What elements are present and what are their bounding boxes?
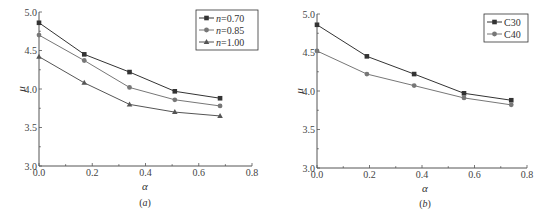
data-point-marker (412, 72, 417, 77)
data-point-marker (509, 98, 514, 103)
legend-marker (492, 32, 497, 37)
data-point-marker (509, 102, 514, 107)
y-tick-label: 5.0 (25, 7, 38, 18)
data-point-marker (218, 104, 223, 109)
legend-entry: C30 (504, 17, 521, 28)
y-tick-label: 3.5 (303, 124, 316, 135)
data-point-marker (315, 49, 320, 54)
x-axis-label: α (142, 180, 148, 192)
data-point-marker (36, 54, 42, 59)
y-tick-label: 3.0 (303, 163, 316, 174)
x-tick-label: 0.6 (468, 169, 481, 180)
y-tick-label: 3.5 (25, 122, 38, 133)
data-point-marker (82, 58, 87, 63)
x-tick-label: 0.2 (86, 167, 99, 178)
x-tick-label: 0.8 (521, 169, 534, 180)
data-point-marker (172, 97, 177, 102)
data-point-marker (37, 20, 42, 25)
y-tick-label: 4.5 (25, 45, 38, 56)
x-tick-label: 0.4 (416, 169, 429, 180)
legend-marker (204, 28, 209, 33)
y-tick-label: 3.0 (25, 161, 38, 172)
legend-entry: n=1.00 (216, 37, 244, 48)
panel-b-chart: 0.00.20.40.60.83.03.54.04.55.0αμ(b)C30C4… (293, 9, 533, 211)
figure: 0.00.20.40.60.83.03.54.04.55.0αμ(a)n=0.7… (0, 0, 538, 211)
x-axis-label: α (422, 182, 428, 194)
legend: C30C40 (484, 14, 528, 42)
panel-a-chart: 0.00.20.40.60.83.03.54.04.55.0αμ(a)n=0.7… (15, 7, 258, 210)
data-point-marker (218, 96, 223, 101)
panel-label: (b) (419, 198, 431, 210)
x-tick-label: 0.8 (246, 167, 259, 178)
series-c40 (315, 49, 514, 108)
data-point-marker (127, 70, 132, 75)
data-point-marker (82, 52, 87, 57)
data-point-marker (365, 54, 370, 59)
data-point-marker (462, 96, 467, 101)
data-point-marker (127, 85, 132, 90)
data-point-marker (412, 83, 417, 88)
data-point-marker (462, 91, 467, 96)
y-axis-label: μ (293, 88, 305, 95)
data-point-marker (364, 72, 369, 77)
x-tick-label: 0.2 (363, 169, 376, 180)
data-point-marker (172, 89, 177, 94)
panel-label: (a) (139, 197, 151, 209)
legend: n=0.70n=0.85n=1.00 (196, 10, 258, 50)
x-tick-label: 0.4 (139, 167, 152, 178)
legend-entry: C40 (504, 29, 521, 40)
data-point-marker (37, 33, 42, 38)
x-tick-label: 0.6 (193, 167, 206, 178)
y-axis-label: μ (15, 86, 27, 93)
legend-marker (492, 20, 497, 25)
y-tick-label: 5.0 (303, 9, 316, 20)
y-tick-label: 4.5 (303, 47, 316, 58)
data-point-marker (315, 22, 320, 27)
data-point-marker (81, 80, 87, 85)
legend-marker (204, 16, 209, 21)
legend-entry: n=0.70 (216, 13, 244, 24)
legend-entry: n=0.85 (216, 25, 244, 36)
